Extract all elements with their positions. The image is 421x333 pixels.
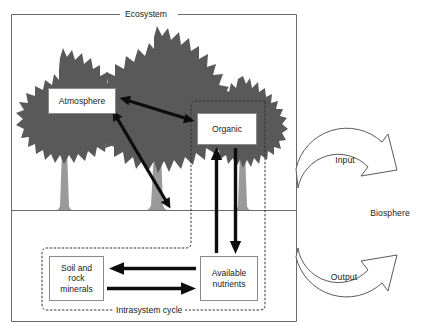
arrow-nutrients-to-soil [109, 262, 196, 274]
soil-rock-minerals-box: Soil and rock minerals [49, 256, 104, 301]
arrow-nutrients-to-organic [211, 147, 222, 253]
organic-label: Organic [212, 124, 242, 135]
ecosystem-label: Ecosystem [122, 9, 170, 19]
soil-rock-minerals-label: Soil and rock minerals [60, 263, 92, 295]
intrasystem-cycle-label: Intrasystem cycle [113, 305, 185, 315]
organic-box: Organic [197, 113, 257, 145]
atmosphere-label: Atmosphere [59, 96, 105, 107]
ecosystem-diagram: Ecosystem Atmosphere Organic Soil and ro… [0, 0, 421, 333]
available-nutrients-label: Available nutrients [212, 268, 247, 289]
biosphere-label: Biosphere [361, 208, 419, 219]
atmosphere-box: Atmosphere [48, 88, 116, 114]
available-nutrients-box: Available nutrients [200, 256, 258, 301]
input-label: Input [320, 155, 370, 166]
arrow-soil-to-nutrients [107, 282, 196, 294]
output-label: Output [318, 272, 370, 283]
